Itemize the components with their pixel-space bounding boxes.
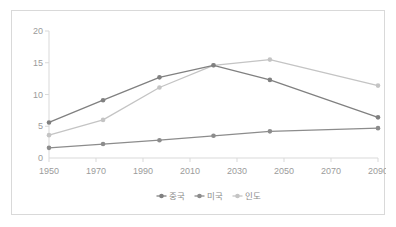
- legend-label: 미국: [207, 191, 223, 201]
- chart-frame: 05101520 1950197019902010203020502070209…: [11, 10, 385, 215]
- legend-swatch-marker: [235, 194, 240, 199]
- data-point-marker: [268, 57, 273, 62]
- x-tick-label: 2090: [368, 166, 386, 176]
- x-tick-label: 2030: [227, 166, 247, 176]
- data-point-marker: [101, 118, 106, 123]
- x-tick-label: 1970: [86, 166, 106, 176]
- data-point-marker: [268, 78, 273, 83]
- y-tick-labels: 05101520: [33, 26, 49, 163]
- data-point-marker: [47, 120, 52, 125]
- series-layer: [47, 57, 381, 150]
- series-line: [49, 60, 378, 136]
- x-tick-label: 2050: [274, 166, 294, 176]
- series-미국: [47, 126, 381, 150]
- legend-item-미국[interactable]: 미국: [195, 191, 223, 201]
- data-point-marker: [376, 83, 381, 88]
- x-tick-label: 2010: [180, 166, 200, 176]
- legend-label: 인도: [245, 191, 261, 201]
- line-chart-svg: 05101520 1950197019902010203020502070209…: [12, 11, 386, 216]
- data-point-marker: [101, 98, 106, 103]
- x-tick-labels: 19501970199020102030205020702090: [39, 158, 386, 176]
- data-point-marker: [211, 63, 216, 68]
- data-point-marker: [376, 115, 381, 120]
- data-point-marker: [157, 85, 162, 90]
- data-point-marker: [47, 146, 52, 151]
- y-tick-label: 0: [38, 153, 43, 163]
- x-tick-label: 1950: [39, 166, 59, 176]
- data-point-marker: [268, 129, 273, 134]
- y-tick-label: 20: [33, 26, 43, 36]
- series-중국: [47, 63, 381, 125]
- chart-plot-area: 05101520 1950197019902010203020502070209…: [12, 11, 386, 216]
- data-point-marker: [376, 126, 381, 131]
- data-point-marker: [211, 133, 216, 138]
- y-tick-label: 5: [38, 121, 43, 131]
- legend-swatch-marker: [159, 194, 164, 199]
- chart-legend: 중국미국인도: [157, 191, 261, 201]
- y-tick-label: 15: [33, 58, 43, 68]
- legend-swatch-marker: [197, 194, 202, 199]
- x-tick-label: 2070: [321, 166, 341, 176]
- data-point-marker: [157, 75, 162, 80]
- y-tick-label: 10: [33, 90, 43, 100]
- data-point-marker: [157, 138, 162, 143]
- legend-item-중국[interactable]: 중국: [157, 191, 185, 201]
- x-tick-label: 1990: [133, 166, 153, 176]
- legend-item-인도[interactable]: 인도: [233, 191, 261, 201]
- data-point-marker: [47, 133, 52, 138]
- data-point-marker: [101, 142, 106, 147]
- legend-label: 중국: [169, 191, 185, 201]
- series-인도: [47, 57, 381, 137]
